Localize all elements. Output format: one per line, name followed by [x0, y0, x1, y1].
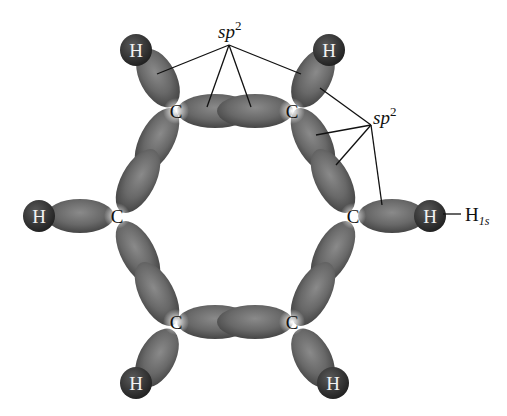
carbon-label-left: C [111, 206, 124, 227]
carbon-label-bottom-left: C [170, 312, 183, 333]
hydrogen-label-top-right: H [322, 40, 336, 61]
hydrogen-label-left: H [32, 206, 46, 227]
hydrogen-label-right: H [423, 206, 437, 227]
carbon-label-top-right: C [286, 101, 299, 122]
hydrogen-label-top-left: H [129, 40, 143, 61]
hydrogen-label-bottom-right: H [326, 373, 340, 394]
right-sp2-label: sp2 [373, 104, 396, 128]
carbon-label-bottom-right: C [286, 312, 299, 333]
benzene-sp2-orbital-diagram: C C C C C C H H H H H H sp2 sp2 H1s [0, 0, 507, 416]
hydrogen-label-bottom-left: H [129, 373, 143, 394]
cc-bond-bottom [177, 305, 293, 339]
h1s-label: H1s [465, 204, 490, 228]
cc-bond-top [177, 94, 293, 128]
top-sp2-label: sp2 [218, 18, 241, 42]
carbon-label-top-left: C [170, 101, 183, 122]
carbon-label-right: C [347, 206, 360, 227]
